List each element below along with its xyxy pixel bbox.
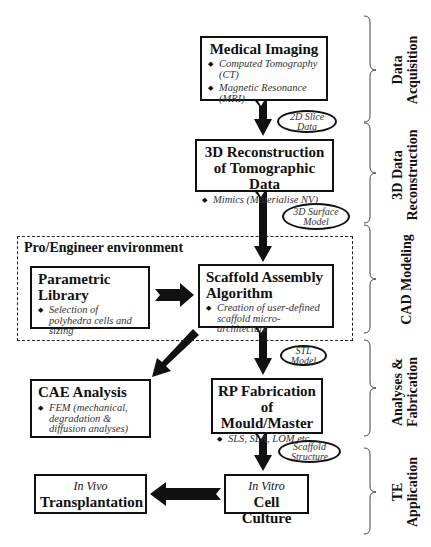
node-title: Cell Culture [230, 494, 303, 526]
node-title: of Tomographic Data [202, 160, 327, 192]
node-title: 3D Reconstruction [202, 144, 327, 160]
node-title: Algorithm [206, 285, 326, 301]
edge-label-scaffold-structure: Scaffold Structure [278, 440, 341, 463]
edge-label-stl-model: STL Model [280, 345, 327, 366]
stage-label-line: Application [405, 437, 420, 547]
bullet-item: FEM (mechanical, degradation & diffusion… [38, 403, 143, 435]
node-cae-analysis: CAE Analysis FEM (mechanical, degradatio… [30, 379, 151, 438]
node-rp-fabrication: RP Fabrication of Mould/Master SLS, SLA,… [211, 378, 323, 434]
node-3d-reconstruction: 3D Reconstruction of Tomographic Data Mi… [195, 139, 334, 192]
stage-label-analyses-fabrication: Analyses & Fabrication [390, 337, 424, 447]
node-title: Medical Imaging [208, 41, 320, 57]
stage-label-line: 3D Data [390, 120, 405, 230]
edge-label-surface-model: 3D Surface Model [282, 203, 350, 230]
node-cell-culture: In Vitro Cell Culture [224, 474, 309, 514]
stage-label-line: Acquisition [405, 15, 420, 125]
stage-label-data-acquisition: Data Acquisition [390, 15, 424, 125]
arrow-left-icon [150, 482, 221, 506]
node-transplantation: In Vivo Transplantation [34, 474, 147, 514]
node-title: RP Fabrication [217, 383, 317, 399]
bullet-item: Selection of polyhedra cells and sizing [38, 305, 142, 337]
brace-icon [364, 340, 376, 436]
node-title: Transplantation [40, 494, 141, 510]
node-parametric-library: Parametric Library Selection of polyhedr… [30, 266, 150, 329]
brace-icon [364, 448, 376, 534]
node-title: of Mould/Master [217, 399, 317, 431]
stage-label-line: CAD Modeling [399, 225, 414, 335]
node-medical-imaging: Medical Imaging Computed Tomography (CT)… [200, 36, 328, 101]
node-title: CAE Analysis [38, 384, 143, 400]
stage-label-line: Data [390, 15, 405, 125]
stage-label-te-application: TE Application [390, 437, 424, 547]
bullet-item: Computed Tomography (CT) [208, 59, 320, 80]
edge-label-slice-data: 2D Slice Data [277, 110, 337, 133]
environment-label: Pro/Engineer environment [24, 240, 183, 256]
node-title: Scaffold Assembly [206, 269, 326, 285]
stage-label-line: Fabrication [405, 337, 420, 447]
stage-label-3d-data-reconstruction: 3D Data Reconstruction [390, 120, 424, 230]
stage-label-line: Analyses & [390, 337, 405, 447]
stage-label-line: Reconstruction [405, 120, 420, 230]
node-title: Parametric [38, 271, 142, 287]
brace-icon [364, 123, 376, 223]
node-subtitle: In Vitro [230, 479, 303, 494]
arrow-down-icon [254, 101, 272, 136]
node-title: Library [38, 287, 142, 303]
node-subtitle: In Vivo [40, 479, 141, 494]
bullet-item: Creation of user-defined scaffold micro-… [206, 303, 326, 335]
brace-icon [364, 16, 376, 122]
stage-label-cad-modeling: CAD Modeling [399, 225, 416, 335]
bullet-item: Magnetic Resonance (MRI) [208, 83, 320, 104]
brace-icon [364, 225, 376, 333]
stage-label-line: TE [390, 437, 405, 547]
node-scaffold-assembly: Scaffold Assembly Algorithm Creation of … [198, 264, 334, 328]
